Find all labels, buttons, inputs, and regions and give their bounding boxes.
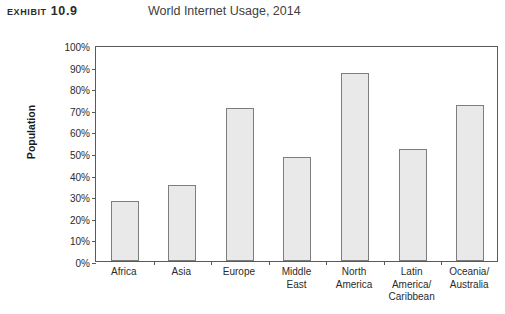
bars-layer	[96, 47, 497, 261]
x-axis-tick-mark	[441, 261, 442, 265]
x-axis-label: Asia	[153, 266, 211, 279]
bar[interactable]	[226, 108, 254, 261]
bar[interactable]	[168, 185, 196, 261]
bar-slot	[154, 47, 212, 261]
bar-slot	[441, 47, 499, 261]
y-axis-tick-label: 100%	[64, 42, 96, 53]
exhibit-tag: Exhibit 10.9	[7, 4, 78, 18]
x-axis-label: Europe	[210, 266, 268, 279]
y-axis-tick-mark	[92, 263, 96, 264]
x-axis-label: Oceania/Australia	[440, 266, 498, 291]
bar-slot	[269, 47, 327, 261]
x-axis-label: Africa	[95, 266, 153, 279]
x-axis-tick-mark	[269, 261, 270, 265]
x-axis-tick-mark	[326, 261, 327, 265]
bar[interactable]	[111, 201, 139, 261]
x-axis-tick-mark	[384, 261, 385, 265]
x-axis-label: NorthAmerica	[325, 266, 383, 291]
exhibit-header: Exhibit 10.9 World Internet Usage, 2014	[0, 0, 505, 26]
bar[interactable]	[283, 157, 311, 261]
bar[interactable]	[341, 73, 369, 261]
chart-title: World Internet Usage, 2014	[148, 4, 301, 18]
x-axis-tick-mark	[154, 261, 155, 265]
bar[interactable]	[399, 149, 427, 261]
bar-slot	[384, 47, 442, 261]
plot-area: 0%10%20%30%40%50%60%70%80%90%100%	[95, 46, 498, 262]
bar[interactable]	[456, 105, 484, 261]
bar-slot	[326, 47, 384, 261]
bar-slot	[211, 47, 269, 261]
x-axis-labels: AfricaAsiaEuropeMiddleEastNorthAmericaLa…	[95, 266, 498, 314]
x-axis-label: MiddleEast	[268, 266, 326, 291]
bar-chart: Population 0%10%20%30%40%50%60%70%80%90%…	[0, 26, 505, 314]
y-axis-title: Population	[25, 87, 37, 177]
bar-slot	[96, 47, 154, 261]
x-axis-label: LatinAmerica/Caribbean	[383, 266, 441, 304]
x-axis-tick-mark	[211, 261, 212, 265]
